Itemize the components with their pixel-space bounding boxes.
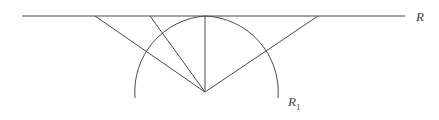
ray-right bbox=[205, 16, 318, 92]
ray-left bbox=[150, 16, 205, 92]
label-r1-main: R bbox=[287, 94, 296, 109]
label-r: R bbox=[415, 9, 424, 24]
geometric-diagram: R R1 bbox=[0, 0, 439, 120]
label-r1-subscript: 1 bbox=[296, 102, 301, 112]
label-r1: R1 bbox=[287, 94, 300, 112]
ray-far-left bbox=[95, 16, 205, 92]
